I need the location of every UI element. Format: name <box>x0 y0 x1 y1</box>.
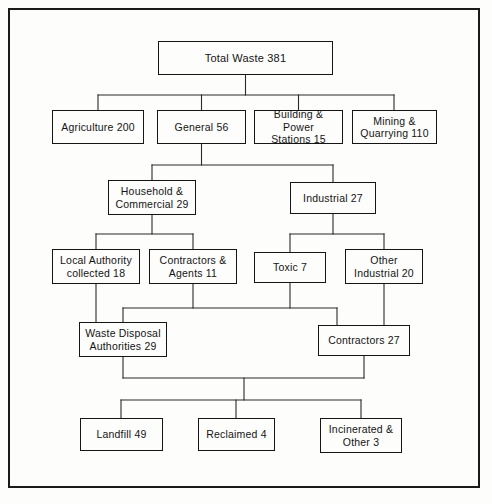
node-label: Toxic 7 <box>273 261 307 274</box>
node-label: General 56 <box>175 121 229 134</box>
node-label: Household & Commercial 29 <box>115 185 188 210</box>
node-label: Contractors 27 <box>328 334 400 347</box>
node-box-general: General 56 <box>157 110 246 144</box>
node-label: Agriculture 200 <box>61 121 135 134</box>
node-box-toxic: Toxic 7 <box>254 252 326 283</box>
node-label: Building & Power Stations 15 <box>258 108 339 146</box>
node-box-incinerated-other: Incinerated & Other 3 <box>320 418 402 453</box>
node-box-total-waste: Total Waste 381 <box>158 41 333 75</box>
node-label: Mining & Quarrying 110 <box>360 115 428 140</box>
node-box-mining-quarrying: Mining & Quarrying 110 <box>352 110 437 144</box>
node-box-reclaimed: Reclaimed 4 <box>198 418 275 451</box>
diagram-frame-border <box>8 8 480 488</box>
node-box-agriculture: Agriculture 200 <box>52 110 144 144</box>
node-label: Local Authority collected 18 <box>60 254 132 279</box>
node-box-contractors-agents: Contractors & Agents 11 <box>149 249 237 284</box>
node-label: Total Waste 381 <box>205 52 286 65</box>
node-label: Incinerated & Other 3 <box>329 423 393 448</box>
waste-flow-diagram: Total Waste 381Agriculture 200General 56… <box>0 0 492 504</box>
node-box-household-comm: Household & Commercial 29 <box>108 180 196 215</box>
node-box-other-industrial: Other Industrial 20 <box>345 249 423 284</box>
node-box-local-authority: Local Authority collected 18 <box>52 249 140 284</box>
node-label: Waste Disposal Authorities 29 <box>85 327 160 352</box>
node-box-landfill: Landfill 49 <box>80 418 163 451</box>
node-label: Other Industrial 20 <box>354 254 414 279</box>
node-box-industrial: Industrial 27 <box>290 182 376 214</box>
node-box-building-power: Building & Power Stations 15 <box>254 110 343 144</box>
node-label: Industrial 27 <box>303 192 363 205</box>
node-box-waste-disposal: Waste Disposal Authorities 29 <box>79 322 167 357</box>
node-box-contractors-27: Contractors 27 <box>318 325 410 356</box>
node-label: Landfill 49 <box>96 428 146 441</box>
node-label: Reclaimed 4 <box>206 428 267 441</box>
node-label: Contractors & Agents 11 <box>160 254 227 279</box>
